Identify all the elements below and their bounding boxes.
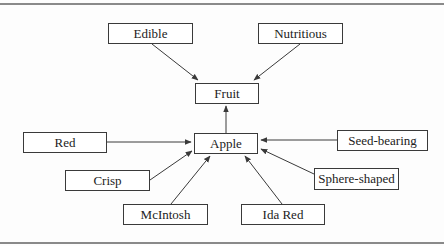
node-apple: Apple [194,133,258,154]
node-seed-bearing: Seed-bearing [337,130,428,151]
arrow-edible-to-fruit [152,44,198,80]
node-sphere-shaped: Sphere-shaped [314,168,399,190]
arrow-mcintosh-to-apple [171,156,210,204]
node-nutritious: Nutritious [258,23,343,44]
arrow-sphere-shaped-to-apple [261,149,314,174]
edge-layer [0,0,444,246]
concept-map: EdibleNutritiousFruitAppleRedSeed-bearin… [0,0,444,246]
node-mcintosh: McIntosh [123,204,208,225]
arrow-nutritious-to-fruit [254,44,300,80]
arrow-ida-red-to-apple [245,156,282,204]
node-red: Red [23,132,107,153]
node-fruit: Fruit [195,83,259,104]
node-crisp: Crisp [65,170,150,191]
arrow-crisp-to-apple [150,151,192,180]
node-ida-red: Ida Red [241,204,325,225]
node-edible: Edible [108,23,193,44]
